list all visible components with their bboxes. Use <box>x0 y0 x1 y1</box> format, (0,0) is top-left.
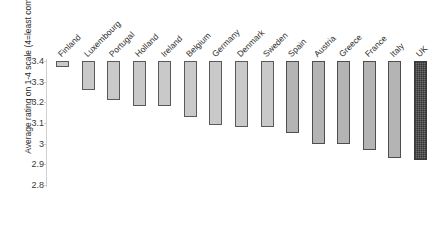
y-tick-label: 3.4 <box>0 56 44 66</box>
x-tick-label-austria: Austria <box>312 33 338 59</box>
x-tick-label-wrap: Luxembourg <box>89 58 90 59</box>
bar-austria <box>312 61 325 144</box>
x-tick-label-italy: Italy <box>388 41 406 59</box>
x-tick-label-greece: Greece <box>337 32 364 59</box>
x-tick-label-wrap: UK <box>421 58 422 59</box>
x-tick-label-wrap: Italy <box>395 58 396 59</box>
x-tick-label-ireland: Ireland <box>158 34 183 59</box>
x-tick-label-wrap: Portugal <box>114 58 115 59</box>
bar-greece <box>337 61 350 144</box>
x-tick-label-belgium: Belgium <box>184 30 213 59</box>
x-tick-label-wrap: France <box>370 58 371 59</box>
x-tick-label-wrap: Greece <box>344 58 345 59</box>
x-tick-label-wrap: Finland <box>63 58 64 59</box>
x-tick-label-wrap: Germany <box>217 58 218 59</box>
bar-chart: Average rating on 1-4 scale (4=least com… <box>0 0 437 242</box>
bar-germany <box>209 61 222 125</box>
plot-area <box>47 61 430 185</box>
x-tick-label-wrap: Spain <box>293 58 294 59</box>
y-tick-label: 2.8 <box>0 180 44 190</box>
bar-denmark <box>235 61 248 127</box>
bar-portugal <box>107 61 120 100</box>
x-tick-label-wrap: Belgium <box>191 58 192 59</box>
x-tick-label-wrap: Holland <box>140 58 141 59</box>
x-tick-label-wrap: Denmark <box>242 58 243 59</box>
x-tick-label-spain: Spain <box>286 37 308 59</box>
x-tick-label-france: France <box>363 33 389 59</box>
bar-belgium <box>184 61 197 117</box>
bar-luxembourg <box>82 61 95 90</box>
bar-spain <box>286 61 299 133</box>
y-tick-label: 3 <box>0 139 44 149</box>
x-tick-label-wrap: Austria <box>319 58 320 59</box>
y-tick-label: 3.3 <box>0 77 44 87</box>
y-tick-label: 3.1 <box>0 118 44 128</box>
y-tick-label: 2.9 <box>0 159 44 169</box>
bar-holland <box>133 61 146 106</box>
x-tick-label-holland: Holland <box>133 32 160 59</box>
bar-ireland <box>158 61 171 106</box>
y-tick-label: 3.2 <box>0 97 44 107</box>
x-tick-label-finland: Finland <box>56 32 83 59</box>
y-tick-mark <box>44 185 47 186</box>
bar-uk <box>414 61 427 160</box>
bar-finland <box>56 61 69 67</box>
x-tick-label-uk: UK <box>414 44 429 59</box>
bar-sweden <box>261 61 274 127</box>
x-tick-label-wrap: Ireland <box>166 58 167 59</box>
bar-france <box>363 61 376 150</box>
x-tick-label-wrap: Sweden <box>268 58 269 59</box>
bar-italy <box>388 61 401 158</box>
